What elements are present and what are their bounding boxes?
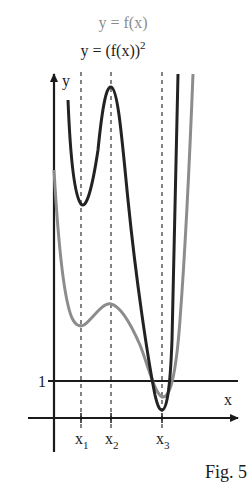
tick-label-x3: x3 bbox=[156, 430, 170, 451]
tick-label-x1: x1 bbox=[75, 430, 89, 451]
figure: y = f(x) y = (f(x))2 1 y x x1 x2 x3 Fig.… bbox=[0, 0, 247, 497]
x-axis-label: x bbox=[224, 391, 232, 408]
reference-line-label: 1 bbox=[38, 373, 46, 390]
legend-f-squared: y = (f(x))2 bbox=[80, 39, 145, 60]
legend-f: y = f(x) bbox=[98, 14, 147, 32]
tick-label-x2: x2 bbox=[105, 430, 119, 451]
y-axis-label: y bbox=[62, 72, 70, 90]
figure-caption: Fig. 5 bbox=[205, 462, 247, 482]
